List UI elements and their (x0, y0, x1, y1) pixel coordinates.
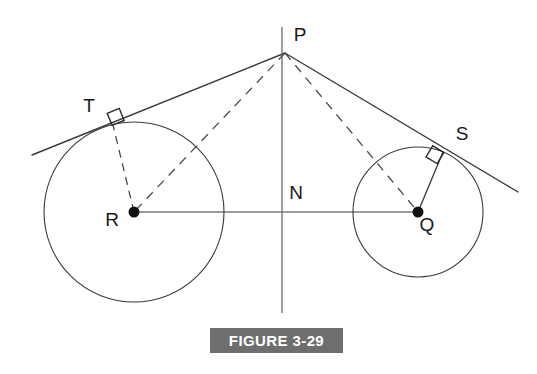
point-label-P: P (294, 24, 307, 45)
point-label-T: T (83, 95, 95, 116)
right-angle-marks-group (107, 108, 444, 163)
solid-lines-group (32, 27, 518, 313)
radius-RT-dashed (113, 125, 134, 212)
figure-caption-text: FIGURE 3-29 (229, 332, 324, 349)
segment-PR-dashed (134, 53, 285, 212)
figure-caption-banner: FIGURE 3-29 (210, 328, 343, 353)
segment-PQ-dashed (285, 53, 418, 212)
geometry-diagram: P T S R Q N (0, 0, 537, 374)
tangent-line-left (32, 53, 285, 155)
point-dot-R (129, 207, 140, 218)
point-label-N: N (289, 182, 303, 203)
point-label-S: S (456, 123, 469, 144)
point-label-R: R (105, 209, 119, 230)
tangent-line-right (285, 53, 518, 192)
figure-container: P T S R Q N FIGURE 3-29 (0, 0, 537, 374)
point-label-Q: Q (420, 214, 435, 235)
dashed-lines-group (113, 53, 418, 212)
